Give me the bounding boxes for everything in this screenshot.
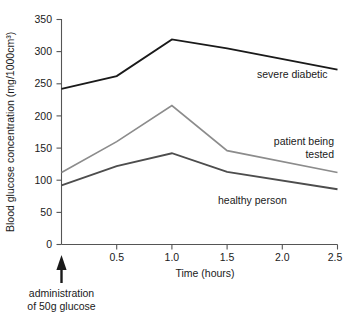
line-chart: Blood glucose concentration (mg/1000cm³)…	[0, 0, 355, 315]
y-tick-350: 350	[34, 13, 52, 25]
series-line-severe-diabetic	[62, 39, 338, 89]
y-tick-50: 50	[40, 206, 52, 218]
y-tick-100: 100	[34, 174, 52, 186]
x-tick-0-5: 0.5	[109, 251, 124, 263]
y-tick-labels: 0 50 100 150 200 250 300 350	[34, 13, 52, 250]
x-tick-2-0: 2.0	[275, 251, 290, 263]
y-axis-title: Blood glucose concentration (mg/1000cm³)	[4, 32, 16, 232]
y-tick-marks	[57, 20, 62, 245]
administration-label-line2: of 50g glucose	[27, 300, 95, 312]
administration-label-line1: administration	[29, 287, 95, 299]
x-tick-marks	[117, 245, 338, 250]
series-line-healthy-person	[62, 153, 338, 189]
series-label-healthy-person: healthy person	[218, 194, 287, 206]
y-tick-300: 300	[34, 45, 52, 57]
y-tick-0: 0	[46, 238, 52, 250]
y-tick-200: 200	[34, 110, 52, 122]
series-label-severe-diabetic: severe diabetic	[257, 68, 328, 80]
chart-svg: Blood glucose concentration (mg/1000cm³)…	[0, 0, 355, 315]
y-tick-150: 150	[34, 142, 52, 154]
x-tick-1-0: 1.0	[165, 251, 180, 263]
data-series-group	[62, 39, 338, 189]
y-tick-250: 250	[34, 77, 52, 89]
series-label-patient-being: patient being	[274, 135, 334, 147]
administration-arrow-icon	[56, 255, 66, 283]
x-tick-2-5: 2.5	[328, 251, 343, 263]
series-label-tested: tested	[305, 148, 334, 160]
x-tick-1-5: 1.5	[220, 251, 235, 263]
x-tick-labels: 0.5 1.0 1.5 2.0 2.5	[109, 251, 342, 263]
x-axis-title: Time (hours)	[175, 267, 234, 279]
